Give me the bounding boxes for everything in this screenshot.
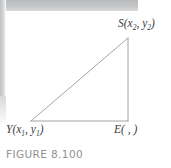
vertex-label-s-x-sub: 2	[133, 23, 137, 32]
vertex-label-e: E( , )	[114, 124, 137, 136]
vertex-label-s-close-paren: )	[151, 17, 155, 29]
triangle-edge-hypotenuse-YS	[31, 38, 128, 121]
vertex-label-s: S(x2, y2)	[118, 18, 155, 30]
figure-caption: FIGURE 8.100	[6, 148, 83, 160]
vertex-label-e-blank-coords: ( , )	[121, 123, 137, 135]
vertex-label-s-y-sub: 2	[147, 23, 151, 32]
vertex-label-s-x-var: x	[128, 17, 133, 29]
vertex-label-y-x-sub: 1	[21, 129, 25, 138]
vertex-label-e-name: E	[114, 123, 121, 135]
figure-container: S(x2, y2) Y(x1, y1) E( , ) FIGURE 8.100	[0, 0, 171, 168]
vertex-label-y-y-sub: 1	[36, 129, 40, 138]
vertex-label-y: Y(x1, y1)	[6, 124, 44, 136]
vertex-label-y-close-paren: )	[40, 123, 44, 135]
